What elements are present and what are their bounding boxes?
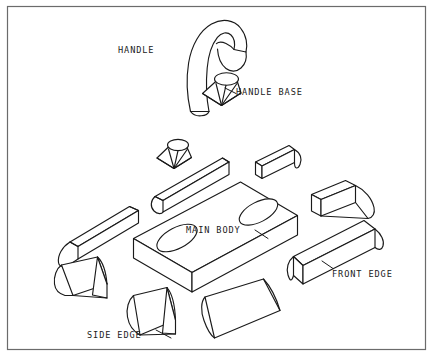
edge-bar-right-upper-round-end	[356, 186, 375, 219]
label-main-body: MAIN BODY	[186, 225, 241, 235]
part-edge-bar-bottom-center	[202, 279, 280, 338]
handle-hook-tip	[218, 49, 247, 71]
part-edge-bar-left-lower	[54, 257, 107, 298]
front-edge-round-left	[287, 257, 293, 281]
front-edge-round-right	[375, 229, 383, 249]
side-edge-bottom	[140, 334, 176, 335]
diagram-canvas: HANDLE HANDLE BASE MAIN BODY FRONT EDGE …	[0, 0, 433, 356]
handle-base-lower-top-ellipse	[168, 139, 189, 150]
label-side-edge: SIDE EDGE	[87, 330, 142, 340]
handle-inner-notch	[216, 42, 234, 49]
edge-bar-right-upper-bottom	[321, 216, 368, 219]
label-front-edge: FRONT EDGE	[332, 269, 393, 279]
edge-bar-bottom-center-body	[205, 279, 280, 338]
handle-base-upper-top-ellipse	[215, 73, 239, 85]
handle-bottom-cut	[191, 112, 210, 116]
label-handle: HANDLE	[118, 45, 154, 55]
exploded-assembly-diagram: HANDLE HANDLE BASE MAIN BODY FRONT EDGE …	[0, 0, 433, 356]
part-side-edge	[127, 288, 175, 336]
part-edge-bar-top-right	[256, 146, 302, 179]
part-edge-bar-right-upper	[312, 181, 375, 219]
edge-bar-top-right-round-end	[295, 150, 302, 169]
label-handle-base: HANDLE BASE	[236, 87, 303, 97]
part-handle-base-lower	[157, 139, 192, 168]
